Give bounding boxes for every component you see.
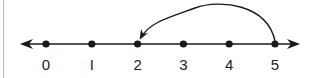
tick-point-5	[271, 40, 278, 47]
jump-arc-arrow	[141, 4, 275, 41]
tick-label-5: 5	[271, 56, 279, 73]
tick-label-2: 2	[133, 56, 141, 73]
tick-point-0	[42, 40, 49, 47]
tick-label-4: 4	[225, 56, 233, 73]
tick-label-3: 3	[179, 56, 187, 73]
tick-point-1	[88, 40, 95, 47]
tick-point-3	[180, 40, 187, 47]
tick-point-4	[226, 40, 233, 47]
tick-point-2	[134, 40, 141, 47]
number-line-diagram: 0I2345	[0, 0, 315, 78]
tick-label-1: I	[90, 56, 94, 73]
tick-label-0: 0	[42, 56, 50, 73]
